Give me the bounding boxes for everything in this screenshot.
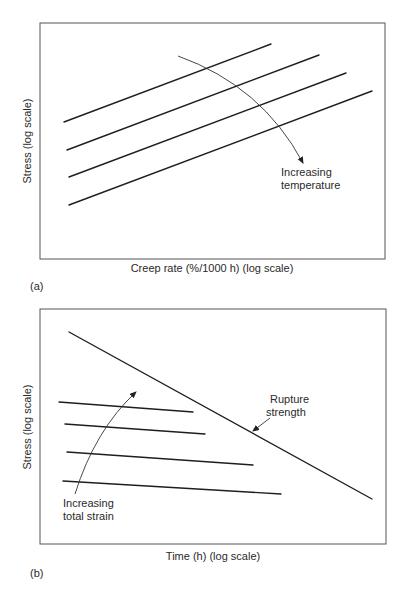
panel-tag-a: (a) bbox=[30, 280, 43, 292]
temperature-line-2 bbox=[67, 55, 319, 150]
annotation-strain-1: Increasing bbox=[63, 497, 114, 509]
x-axis-label-a: Creep rate (%/1000 h) (log scale) bbox=[131, 262, 294, 274]
x-axis-label-b: Time (h) (log scale) bbox=[166, 550, 260, 562]
panel-a: Increasing temperature Creep rate (%/100… bbox=[21, 23, 385, 292]
annotation-temperature-2: temperature bbox=[281, 179, 340, 191]
temperature-line-3 bbox=[69, 73, 346, 177]
strain-line-3 bbox=[65, 424, 205, 434]
rupture-label-1: Rupture bbox=[270, 393, 309, 405]
strain-line-2 bbox=[67, 452, 253, 465]
y-axis-label-b: Stress (log scale) bbox=[21, 385, 33, 470]
figure: Increasing temperature Creep rate (%/100… bbox=[0, 0, 408, 591]
strain-line-4 bbox=[59, 402, 193, 412]
panel-b: Rupture strength Increasing total strain… bbox=[21, 309, 386, 579]
temperature-line-1 bbox=[64, 44, 271, 122]
rupture-label-2: strength bbox=[266, 406, 306, 418]
y-axis-label-a: Stress (log scale) bbox=[21, 99, 33, 184]
rupture-pointer-arrow-icon bbox=[253, 418, 270, 431]
panel-tag-b: (b) bbox=[30, 567, 43, 579]
annotation-strain-2: total strain bbox=[63, 510, 114, 522]
strain-line-1 bbox=[63, 481, 281, 494]
annotation-temperature-1: Increasing bbox=[281, 166, 332, 178]
